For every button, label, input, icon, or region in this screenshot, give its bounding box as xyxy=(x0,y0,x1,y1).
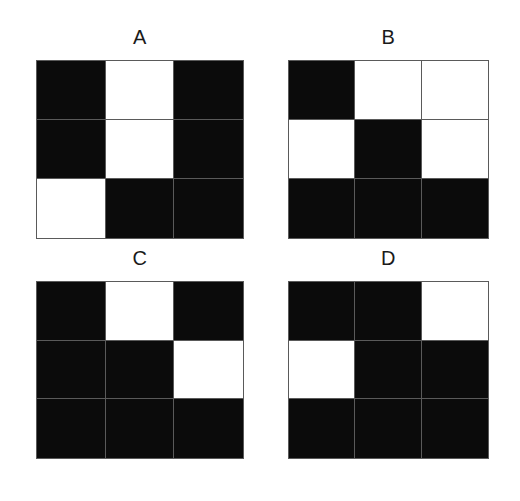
grid-cell-a-r3c2 xyxy=(106,179,175,238)
grid-cell-d-r2c2 xyxy=(355,341,421,400)
grid-cell-d-r1c1 xyxy=(289,282,355,341)
grid-cell-c-r1c1 xyxy=(37,282,106,341)
panel-a-label: A xyxy=(36,26,244,48)
grid-cell-b-r1c2 xyxy=(355,61,421,120)
grid-cell-b-r2c3 xyxy=(422,120,488,179)
panel-d: D xyxy=(288,247,489,459)
panel-c: C xyxy=(36,247,244,459)
grid-cell-c-r1c3 xyxy=(174,282,243,341)
grid-cell-d-r1c3 xyxy=(422,282,488,341)
grid-cell-a-r2c1 xyxy=(37,120,106,179)
panel-a: A xyxy=(36,26,244,239)
grid-cell-c-r2c2 xyxy=(106,341,175,400)
panel-b: B xyxy=(288,26,489,239)
grid-cell-c-r2c3 xyxy=(174,341,243,400)
panel-a-grid xyxy=(36,60,244,239)
panel-c-grid xyxy=(36,281,244,459)
grid-cell-c-r3c2 xyxy=(106,399,175,458)
grid-cell-c-r3c1 xyxy=(37,399,106,458)
figure-canvas: A B C D xyxy=(0,0,520,501)
grid-cell-a-r3c3 xyxy=(174,179,243,238)
grid-cell-a-r2c2 xyxy=(106,120,175,179)
grid-cell-b-r2c2 xyxy=(355,120,421,179)
grid-cell-c-r3c3 xyxy=(174,399,243,458)
grid-cell-a-r1c1 xyxy=(37,61,106,120)
grid-cell-a-r3c1 xyxy=(37,179,106,238)
grid-cell-d-r3c3 xyxy=(422,399,488,458)
grid-cell-d-r2c3 xyxy=(422,341,488,400)
grid-cell-a-r1c2 xyxy=(106,61,175,120)
grid-cell-a-r2c3 xyxy=(174,120,243,179)
grid-cell-b-r3c3 xyxy=(422,179,488,238)
grid-cell-a-r1c3 xyxy=(174,61,243,120)
panel-b-grid xyxy=(288,60,489,239)
grid-cell-d-r3c2 xyxy=(355,399,421,458)
grid-cell-d-r1c2 xyxy=(355,282,421,341)
grid-cell-b-r1c1 xyxy=(289,61,355,120)
grid-cell-b-r1c3 xyxy=(422,61,488,120)
grid-cell-b-r2c1 xyxy=(289,120,355,179)
panel-c-label: C xyxy=(36,247,244,269)
grid-cell-d-r3c1 xyxy=(289,399,355,458)
panel-b-label: B xyxy=(288,26,489,48)
panel-d-label: D xyxy=(288,247,489,269)
grid-cell-c-r2c1 xyxy=(37,341,106,400)
panel-d-grid xyxy=(288,281,489,459)
grid-cell-b-r3c2 xyxy=(355,179,421,238)
grid-cell-b-r3c1 xyxy=(289,179,355,238)
grid-cell-d-r2c1 xyxy=(289,341,355,400)
grid-cell-c-r1c2 xyxy=(106,282,175,341)
